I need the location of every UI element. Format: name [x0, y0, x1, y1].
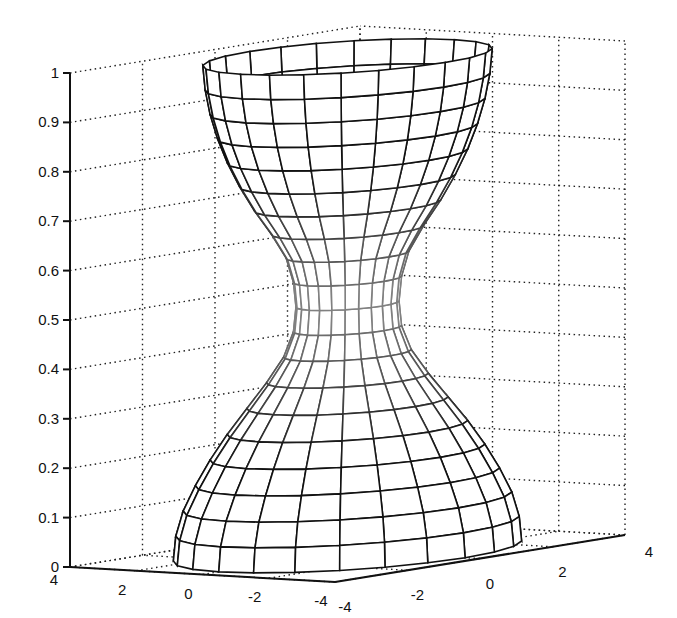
mesh-cell — [340, 517, 385, 546]
mesh-cell — [315, 193, 343, 217]
mesh-cell — [259, 496, 302, 523]
mesh-cell — [340, 491, 383, 520]
mesh-cell — [343, 191, 371, 216]
mesh-cell — [305, 98, 342, 124]
mesh-cell — [318, 286, 332, 311]
mesh-cell — [325, 238, 345, 262]
z-tick-label: 0.3 — [38, 410, 59, 427]
mesh-cell — [342, 143, 376, 169]
mesh-cell — [283, 171, 315, 195]
y-tick-label: 4 — [50, 571, 58, 588]
mesh-cell — [219, 547, 255, 573]
mesh-cell — [329, 262, 345, 286]
mesh-cell — [359, 283, 373, 309]
mesh-cell — [306, 441, 342, 469]
mesh-cell — [373, 140, 407, 167]
mesh-cell — [427, 533, 466, 563]
mesh-cell — [274, 123, 309, 147]
mesh-cell — [463, 527, 494, 557]
mesh-cell — [391, 39, 426, 64]
hourglass-surface-mesh — [173, 39, 521, 573]
mesh-cell — [342, 412, 373, 441]
mesh-cell — [344, 359, 365, 387]
mesh-cell — [377, 91, 413, 119]
z-tick-label: 0.5 — [38, 311, 59, 328]
mesh-cell — [380, 487, 423, 517]
mesh-cell — [302, 468, 342, 496]
mesh-cell — [241, 74, 271, 99]
mesh-cell — [254, 547, 296, 573]
x-tick-label: -4 — [338, 598, 351, 615]
y-tick-label: 0 — [184, 585, 192, 602]
mesh-cell — [340, 542, 385, 570]
mesh-cell — [270, 75, 305, 100]
z-tick-label: 0.8 — [38, 163, 59, 180]
mesh-cell — [371, 281, 384, 307]
mesh-cell — [311, 414, 343, 442]
z-tick-label: 0.7 — [38, 212, 59, 229]
x-tick-label: 0 — [486, 575, 494, 592]
mesh-cell — [341, 439, 377, 468]
mesh-cell — [345, 309, 359, 335]
mesh-cell — [328, 335, 345, 362]
mesh-cell — [444, 58, 470, 87]
mesh-cell — [296, 520, 341, 547]
mesh-cell — [377, 462, 418, 492]
mesh-cell — [255, 522, 298, 548]
mesh-cell — [342, 167, 373, 193]
mesh-cell — [341, 119, 377, 145]
mesh-cell — [281, 44, 317, 73]
mesh-cell — [219, 72, 243, 98]
mesh-cell — [306, 122, 342, 147]
mesh-cell — [345, 334, 362, 361]
mesh-cell — [316, 41, 354, 69]
x-tick-label: -2 — [411, 586, 424, 603]
mesh-cell — [378, 67, 414, 95]
mesh-cell — [341, 71, 379, 98]
mesh-cell — [242, 99, 273, 124]
z-tick-label: 0.4 — [38, 360, 59, 377]
z-tick-label: 0.9 — [38, 113, 59, 130]
y-tick-label: 2 — [118, 581, 126, 598]
mesh-cell — [308, 146, 342, 171]
mesh-cell — [266, 469, 307, 496]
surface-plot: 00.10.20.30.40.50.60.70.80.91-4-2024-4-2… — [0, 0, 677, 618]
mesh-cell — [413, 63, 445, 92]
y-tick-label: -2 — [248, 588, 261, 605]
z-tick-label: 1 — [51, 64, 59, 81]
mesh-cell — [344, 237, 364, 262]
mesh-cell — [359, 308, 373, 334]
y-tick-label: -4 — [314, 592, 327, 609]
mesh-cell — [492, 522, 513, 552]
z-tick-label: 0.2 — [38, 459, 59, 476]
mesh-cell — [271, 99, 306, 123]
mesh-cell — [304, 73, 341, 99]
z-tick-label: 0.1 — [38, 509, 59, 526]
mesh-cell — [341, 95, 378, 122]
mesh-cell — [331, 310, 345, 336]
x-tick-label: 2 — [558, 563, 566, 580]
mesh-cell — [318, 310, 332, 335]
mesh-cell — [359, 259, 376, 285]
mesh-cell — [385, 538, 428, 567]
z-tick-label: 0.6 — [38, 262, 59, 279]
mesh-cell — [311, 169, 342, 194]
mesh-cell — [341, 465, 381, 494]
mesh-cell — [298, 494, 341, 522]
x-tick-label: 4 — [645, 543, 653, 560]
mesh-cell — [193, 545, 221, 572]
mesh-cell — [277, 147, 311, 171]
mesh-cell — [331, 285, 345, 310]
mesh-cell — [376, 116, 411, 144]
mesh-cell — [371, 164, 403, 191]
mesh-cell — [343, 386, 369, 414]
mesh-cell — [177, 541, 195, 570]
mesh-cell — [246, 123, 277, 147]
mesh-cell — [371, 306, 384, 332]
mesh-cell — [343, 214, 367, 239]
mesh-cell — [345, 260, 361, 285]
mesh-cell — [345, 284, 359, 310]
mesh-cell — [319, 216, 344, 240]
mesh-cell — [354, 39, 391, 66]
mesh-cell — [295, 546, 340, 573]
